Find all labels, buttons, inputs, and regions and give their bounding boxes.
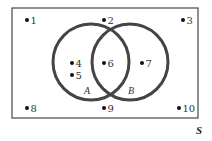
point-label: 9 xyxy=(108,103,114,114)
point-dot xyxy=(70,61,74,65)
universe-label: S xyxy=(196,124,202,136)
point-label: 3 xyxy=(187,15,193,26)
venn-diagram: AB 12345678910 S xyxy=(0,0,212,141)
point-label: 8 xyxy=(31,103,37,114)
set-label-b: B xyxy=(128,85,134,96)
point-6: 6 xyxy=(102,58,114,69)
point-1: 1 xyxy=(25,15,37,26)
point-dot xyxy=(102,18,106,22)
point-9: 9 xyxy=(102,103,114,114)
point-label: 2 xyxy=(108,15,114,26)
point-label: 5 xyxy=(76,70,82,81)
point-label: 10 xyxy=(183,103,196,114)
point-dot xyxy=(102,61,106,65)
point-2: 2 xyxy=(102,15,114,26)
point-4: 4 xyxy=(70,58,82,69)
point-3: 3 xyxy=(181,15,193,26)
point-10: 10 xyxy=(177,103,195,114)
set-label-a: A xyxy=(83,85,91,96)
point-dot xyxy=(25,18,29,22)
point-dot xyxy=(140,61,144,65)
point-dot xyxy=(102,106,106,110)
point-label: 1 xyxy=(31,15,37,26)
point-7: 7 xyxy=(140,58,152,69)
point-dot xyxy=(25,106,29,110)
point-dot xyxy=(177,106,181,110)
point-label: 6 xyxy=(108,58,114,69)
point-label: 7 xyxy=(146,58,152,69)
point-dot xyxy=(70,73,74,77)
point-dot xyxy=(181,18,185,22)
point-5: 5 xyxy=(70,70,82,81)
point-label: 4 xyxy=(76,58,82,69)
point-8: 8 xyxy=(25,103,37,114)
